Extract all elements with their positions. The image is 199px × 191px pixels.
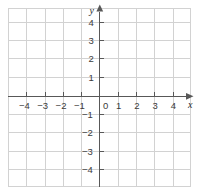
x-axis-line	[8, 93, 194, 100]
y-tick-label-neg2: −2	[82, 128, 93, 138]
y-tick-label-2: 2	[89, 54, 94, 64]
y-tick-label-1: 1	[89, 73, 94, 83]
x-tick-label-neg3: −3	[37, 101, 48, 111]
y-axis-label: y	[90, 6, 94, 16]
x-tick-label-neg2: −2	[56, 101, 67, 111]
x-tick-label-neg4: −4	[19, 101, 30, 111]
x-tick-label-1: 1	[116, 101, 121, 111]
coordinate-plane: −4 −3 −2 −1 0 1 2 3 4 4 3 2 1 −1 −2 −3 −…	[0, 0, 199, 191]
y-tick-label-neg1: −1	[82, 110, 93, 120]
y-tick-label-neg3: −3	[82, 147, 93, 157]
x-axis-label: x	[188, 100, 192, 110]
y-tick-label-4: 4	[89, 18, 94, 28]
y-tick-label-3: 3	[89, 36, 94, 46]
grid-and-axes	[0, 0, 199, 191]
x-tick-label-4: 4	[171, 101, 176, 111]
x-tick-label-2: 2	[134, 101, 139, 111]
origin-label: 0	[103, 101, 108, 111]
y-tick-label-neg4: −4	[82, 165, 93, 175]
x-tick-label-3: 3	[153, 101, 158, 111]
